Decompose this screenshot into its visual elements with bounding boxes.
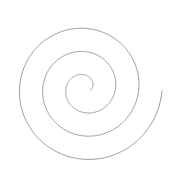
spiral-figure — [0, 0, 170, 177]
spiral-canvas — [0, 0, 170, 177]
canvas-background — [0, 0, 170, 177]
